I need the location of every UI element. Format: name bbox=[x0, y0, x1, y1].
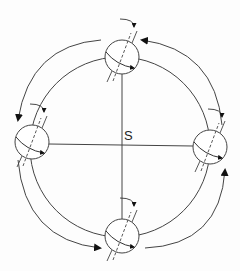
arrow-right-to-top bbox=[142, 40, 222, 125]
orbit-path bbox=[30, 57, 210, 237]
arrow-left-to-bottom bbox=[18, 160, 100, 248]
orbit-diagram: S bbox=[0, 0, 240, 271]
axis-horizontal bbox=[49, 144, 193, 146]
earth-right-icon bbox=[193, 109, 227, 172]
earth-top-icon bbox=[105, 19, 139, 82]
orbit-diagram-graphic bbox=[0, 0, 240, 271]
sun-label: S bbox=[124, 128, 133, 143]
earth-left-icon bbox=[15, 104, 49, 167]
